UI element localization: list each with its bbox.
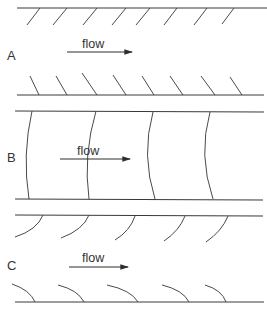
panel-a-bottom-hatches <box>30 73 242 95</box>
panel-b-flow-label: flow <box>77 144 100 158</box>
panel-b-label: B <box>7 150 16 165</box>
flow-diagram: A flow B flow <box>0 0 267 311</box>
panel-a-top-hatches <box>27 8 234 25</box>
panel-c: C flow <box>7 215 264 302</box>
panel-c-label: C <box>7 258 16 273</box>
panel-c-bottom-hooks <box>12 284 226 302</box>
panel-c-top-wall <box>15 215 263 216</box>
panel-b-curved-fronts <box>26 111 213 199</box>
panel-b: B flow <box>7 111 264 200</box>
panel-a: A flow <box>7 8 267 95</box>
panel-c-flow-label: flow <box>82 251 105 265</box>
panel-c-top-hooks <box>15 215 228 242</box>
panel-a-label: A <box>7 48 16 63</box>
panel-b-top-wall <box>15 111 264 112</box>
panel-b-bottom-wall <box>15 199 263 200</box>
panel-a-flow-label: flow <box>82 37 105 51</box>
